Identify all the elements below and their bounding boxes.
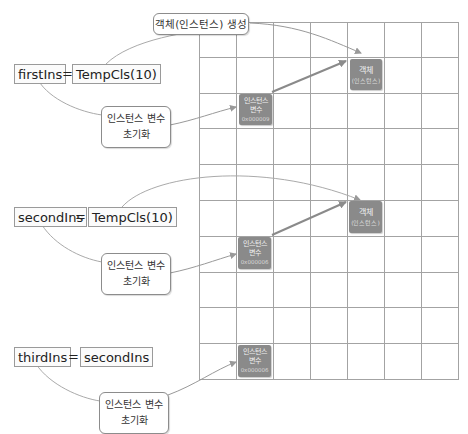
assign-operator: = [68, 347, 79, 367]
instance-variable-box: 인스턴스 변수 0x000006 [238, 345, 271, 377]
expression-tempcls: TempCls(10) [88, 207, 177, 227]
variable-firstIns: firstIns [14, 64, 66, 84]
memory-address: 0x000006 [238, 258, 271, 266]
expression-secondIns: secondIns [80, 347, 153, 367]
object-creation-label: 객체(인스턴스) 생성 [154, 16, 248, 32]
object-instance-box: 객체 (인스턴스) [349, 201, 382, 233]
memory-grid [199, 22, 459, 380]
assign-operator: = [75, 207, 86, 227]
memory-address: 0x000009 [239, 115, 272, 123]
object-instance-box: 객체 (인스턴스) [350, 59, 382, 90]
instance-variable-box: 인스턴스 변수 0x000009 [239, 94, 272, 125]
expression-tempcls: TempCls(10) [72, 64, 161, 84]
memory-address: 0x000006 [238, 366, 271, 374]
instance-var-init-note: 인스턴스 변수 초기화 [99, 392, 169, 434]
variable-thirdIns: thirdIns [14, 347, 71, 367]
instance-variable-box: 인스턴스 변수 0x000006 [238, 237, 271, 269]
instance-var-init-note: 인스턴스 변수 초기화 [101, 106, 171, 148]
object-creation-note: 객체(인스턴스) 생성 [153, 13, 249, 35]
instance-var-init-note: 인스턴스 변수 초기화 [101, 253, 171, 295]
